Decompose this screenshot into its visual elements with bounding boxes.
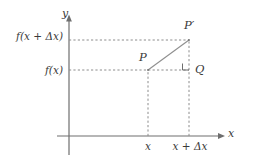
x-axis-label: x: [228, 128, 234, 139]
guide-lines-group: [69, 40, 189, 136]
diagram-svg: [0, 0, 260, 167]
point-label-q: Q: [195, 64, 204, 76]
axis-group: [57, 15, 225, 156]
point-dot-p-prime: [188, 39, 190, 41]
point-label-p-prime: P′: [184, 20, 194, 32]
x-tick-label-x: x: [145, 141, 151, 152]
y-tick-label-f-x-plus-delta-x: f(x + Δx): [0, 31, 63, 42]
point-dot-p: [147, 69, 149, 71]
y-axis-label: y: [62, 8, 68, 19]
point-label-p: P: [139, 52, 147, 64]
x-axis-arrowhead: [218, 133, 225, 139]
right-angle-marker-icon: [183, 64, 190, 71]
figure-canvas: y x f(x + Δx) f(x) x x + Δx P P′ Q: [0, 0, 260, 167]
x-tick-label-x-plus-delta-x: x + Δx: [173, 141, 208, 152]
y-tick-label-f-x: f(x): [0, 65, 63, 76]
